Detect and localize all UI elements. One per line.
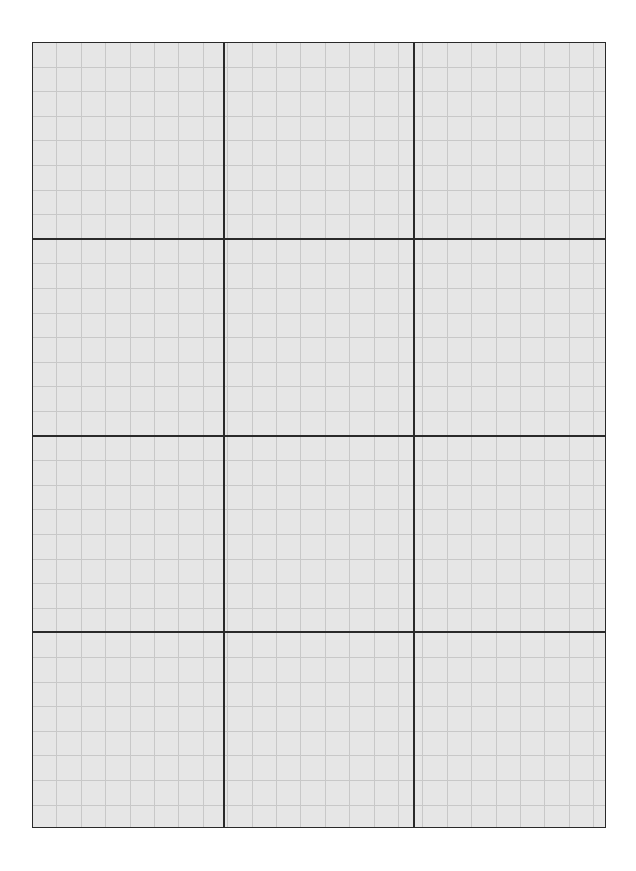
major-horizontal-line-3 [33, 631, 605, 633]
major-horizontal-line-1 [33, 238, 605, 240]
graph-paper-grid [32, 42, 606, 828]
major-horizontal-line-2 [33, 435, 605, 437]
